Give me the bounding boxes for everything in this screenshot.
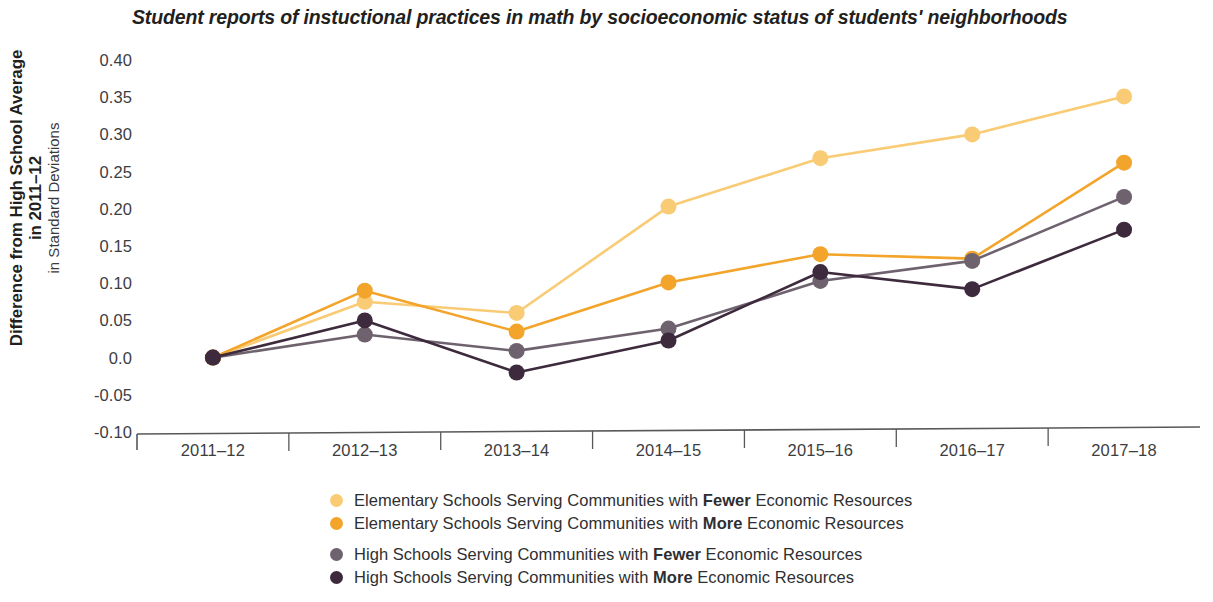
legend-item-label: Elementary Schools Serving Communities w…: [354, 491, 912, 510]
x-axis-baseline: [137, 427, 1200, 434]
x-axis-tick-label: 2017–18: [1091, 441, 1157, 460]
x-axis-tick-label: 2011–12: [181, 441, 245, 460]
series-data-point[interactable]: [964, 253, 980, 269]
legend-item[interactable]: High Schools Serving Communities with Mo…: [330, 566, 1090, 589]
series-data-point[interactable]: [357, 312, 373, 328]
series-data-point[interactable]: [812, 246, 828, 262]
series-data-point[interactable]: [812, 264, 828, 280]
series-data-point[interactable]: [509, 324, 525, 340]
series-lines: [205, 88, 1132, 380]
series-data-point[interactable]: [661, 332, 677, 348]
series-data-point[interactable]: [1116, 189, 1132, 205]
series-data-point[interactable]: [357, 327, 373, 343]
series-data-point[interactable]: [964, 126, 980, 142]
series-data-point[interactable]: [1116, 222, 1132, 238]
series-data-point[interactable]: [1116, 88, 1132, 104]
legend-swatch-icon: [330, 548, 343, 561]
x-axis-tick-label: 2014–15: [636, 441, 702, 460]
x-axis-tick-label: 2016–17: [939, 441, 1005, 460]
x-axis-tick-label: 2012–13: [332, 441, 398, 460]
series-data-point[interactable]: [509, 305, 525, 321]
legend-swatch-icon: [330, 494, 343, 507]
legend-swatch-icon: [330, 571, 343, 584]
x-axis-tick-labels: 2011–122012–132013–142014–152015–162016–…: [135, 441, 1200, 471]
series-data-point[interactable]: [964, 281, 980, 297]
legend-item-label: Elementary Schools Serving Communities w…: [354, 514, 904, 533]
series-data-point[interactable]: [509, 343, 525, 359]
series-data-point[interactable]: [1116, 155, 1132, 171]
legend-swatch-icon: [330, 517, 343, 530]
legend-item[interactable]: Elementary Schools Serving Communities w…: [330, 512, 1090, 535]
legend-item[interactable]: High Schools Serving Communities with Fe…: [330, 543, 1090, 566]
series-data-point[interactable]: [661, 274, 677, 290]
series-line: [213, 96, 1124, 357]
x-axis-tick-label: 2015–16: [788, 441, 854, 460]
legend-item-label: High Schools Serving Communities with Fe…: [354, 545, 862, 564]
series-data-point[interactable]: [205, 350, 221, 366]
legend-item-label: High Schools Serving Communities with Mo…: [354, 568, 854, 587]
legend-item[interactable]: Elementary Schools Serving Communities w…: [330, 489, 1090, 512]
chart-legend: Elementary Schools Serving Communities w…: [330, 489, 1090, 589]
series-data-point[interactable]: [812, 150, 828, 166]
series-data-point[interactable]: [357, 283, 373, 299]
series-data-point[interactable]: [661, 199, 677, 215]
series-data-point[interactable]: [509, 364, 525, 380]
series-line: [213, 230, 1124, 373]
x-axis-tick-label: 2013–14: [484, 441, 550, 460]
